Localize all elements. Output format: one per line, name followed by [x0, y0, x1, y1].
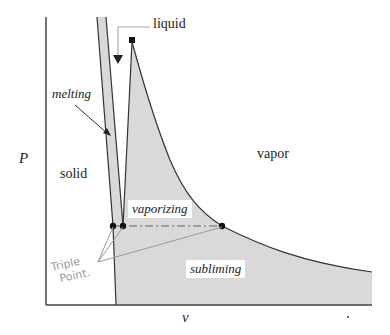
y-axis-label: P — [19, 150, 28, 167]
melting-pointer-line — [75, 105, 108, 134]
triple-point-marker-vapor — [219, 223, 225, 229]
vaporizing-region — [123, 40, 222, 226]
subliming-region-label: subliming — [186, 260, 245, 278]
triple-point-marker-liquid — [120, 223, 126, 229]
solid-region-label: solid — [60, 166, 87, 182]
liquid-label: liquid — [153, 16, 186, 32]
melting-label: melting — [52, 86, 91, 102]
liquid-arrowhead-icon — [113, 55, 123, 64]
vaporizing-region-label: vaporizing — [128, 200, 192, 218]
stray-dot — [347, 316, 349, 318]
critical-point-marker — [129, 37, 135, 43]
vapor-region-label: vapor — [257, 146, 289, 162]
x-axis-label: v — [182, 309, 189, 326]
